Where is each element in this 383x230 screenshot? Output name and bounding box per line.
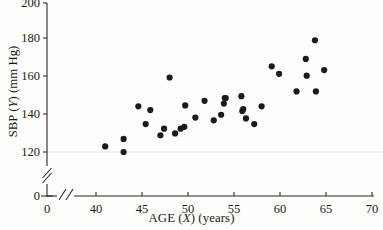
data-point: [161, 126, 167, 132]
x-axis-break-mark: [59, 189, 73, 200]
x-axis-title-variable: X: [183, 211, 191, 225]
data-point: [143, 121, 149, 127]
x-axis-title: AGE (X) (years): [0, 211, 383, 226]
y-tick-label-0: 0: [8, 190, 40, 203]
data-point: [211, 117, 217, 123]
scatter-plot-figure: 200 180 160 140 120 0 0 40 45 50 55 60 6…: [0, 0, 383, 230]
x-axis-group: [47, 189, 374, 200]
data-point: [181, 124, 187, 130]
y-axis-title: SBP (Y) (mm Hg): [6, 17, 21, 167]
data-point: [223, 95, 229, 101]
data-point: [321, 67, 327, 73]
data-point: [221, 100, 227, 106]
x-axis-title-suffix: ) (years): [191, 211, 235, 225]
x-axis-ticks: [96, 192, 372, 196]
data-point: [192, 114, 198, 120]
data-point: [293, 88, 299, 94]
data-point: [238, 93, 244, 99]
data-points-layer: [102, 37, 327, 155]
data-point: [201, 98, 207, 104]
data-point: [251, 121, 257, 127]
plot-surface: 200 180 160 140 120 0 0 40 45 50 55 60 6…: [0, 0, 383, 230]
data-point: [157, 132, 163, 138]
data-point: [312, 37, 318, 43]
y-axis-break-mark: [43, 168, 52, 183]
data-point: [243, 115, 249, 121]
data-point: [167, 74, 173, 80]
data-point: [172, 130, 178, 136]
chart-canvas: [0, 0, 383, 230]
y-axis-group: [41, 3, 53, 197]
data-point: [313, 88, 319, 94]
data-point: [240, 106, 246, 112]
y-axis-title-variable: Y: [6, 100, 20, 107]
x-axis-title-prefix: AGE (: [148, 211, 182, 225]
data-point: [304, 73, 310, 79]
y-tick-label-200: 200: [8, 0, 40, 9]
data-point: [276, 71, 282, 77]
data-point: [121, 136, 127, 142]
data-point: [259, 103, 265, 109]
y-axis-title-prefix: SBP (: [6, 108, 20, 138]
data-point: [269, 63, 275, 69]
data-point: [182, 102, 188, 108]
data-point: [303, 56, 309, 62]
data-point: [218, 112, 224, 118]
data-point: [121, 149, 127, 155]
data-point: [147, 107, 153, 113]
data-point: [135, 103, 141, 109]
data-point: [102, 143, 108, 149]
y-axis-title-suffix: ) (mm Hg): [6, 46, 20, 101]
